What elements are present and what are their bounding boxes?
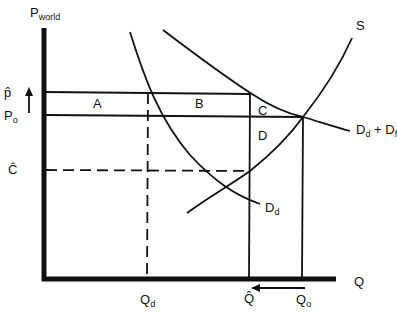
q-o-line — [302, 117, 303, 279]
q-hat-label: Q̂ — [244, 291, 254, 306]
q-o-label: Qo — [296, 292, 311, 309]
quantity-left-arrow-icon — [251, 284, 305, 292]
p-o-label: Po — [4, 108, 18, 125]
region-d-label: D — [258, 128, 267, 143]
economics-diagram: Pworld Q S Dd + Df Dd A B C D p̂ Po Ĉ Qd… — [0, 0, 397, 315]
price-up-arrow-icon — [25, 87, 33, 113]
region-b-label: B — [195, 96, 204, 111]
supply-curve — [187, 38, 352, 213]
q-d-dashed-line — [147, 93, 148, 279]
supply-label: S — [356, 18, 365, 33]
p-hat-label: p̂ — [4, 85, 11, 100]
q-hat-line — [249, 94, 250, 279]
c-hat-label: Ĉ — [8, 162, 17, 177]
total-demand-label: Dd + Df — [356, 122, 397, 139]
y-axis-label: Pworld — [30, 5, 60, 22]
region-a-label: A — [93, 96, 102, 111]
domestic-demand-label: Dd — [265, 200, 279, 217]
region-c-label: C — [258, 103, 267, 118]
q-d-label: Qd — [140, 292, 155, 309]
x-axis-label: Q — [354, 274, 364, 289]
